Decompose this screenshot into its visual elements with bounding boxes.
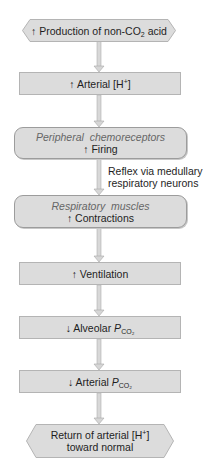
edge-label-reflex: Reflex via medullary respiratory neurons bbox=[108, 165, 203, 189]
node-peripheral-chemoreceptors: Peripheral chemoreceptors ↑ Firing bbox=[14, 127, 187, 159]
node-arterial-pco2: ↓ Arterial PCO₂ bbox=[19, 370, 181, 393]
node-label: Contractions bbox=[75, 212, 134, 224]
down-arrow-icon: ↓ bbox=[66, 322, 71, 334]
node-production-non-co2-acid: ↑ Production of non-CO2 acid bbox=[22, 19, 176, 42]
node-return-toward-normal: Return of arterial [H+] toward normal bbox=[26, 424, 174, 458]
down-arrow-icon: ↓ bbox=[68, 376, 73, 388]
flowchart: ↑ Production of non-CO2 acid ↑ Arterial … bbox=[0, 0, 207, 472]
node-title: Respiratory muscles bbox=[51, 200, 149, 212]
up-arrow-icon: ↑ bbox=[31, 25, 36, 37]
node-label: Alveolar bbox=[73, 322, 114, 334]
connector-arrows bbox=[0, 0, 207, 472]
node-label: Return of arterial [H bbox=[51, 429, 143, 441]
up-arrow-icon: ↑ bbox=[72, 268, 77, 280]
up-arrow-icon: ↑ bbox=[69, 78, 74, 90]
node-respiratory-muscles: Respiratory muscles ↑ Contractions bbox=[14, 195, 187, 228]
up-arrow-icon: ↑ bbox=[67, 212, 72, 224]
node-label: Ventilation bbox=[80, 268, 128, 280]
node-label: Arterial [H bbox=[77, 78, 124, 90]
node-alveolar-pco2: ↓ Alveolar PCO₂ bbox=[19, 316, 181, 339]
node-label: Firing bbox=[91, 143, 117, 155]
node-title: Peripheral chemoreceptors bbox=[36, 131, 165, 143]
node-ventilation: ↑ Ventilation bbox=[19, 262, 181, 285]
up-arrow-icon: ↑ bbox=[83, 143, 88, 155]
node-arterial-h: ↑ Arterial [H+] bbox=[19, 72, 181, 95]
node-label: Arterial bbox=[76, 376, 112, 388]
node-label-line2: toward normal bbox=[67, 441, 134, 453]
node-label: Production of non-CO bbox=[39, 25, 141, 37]
